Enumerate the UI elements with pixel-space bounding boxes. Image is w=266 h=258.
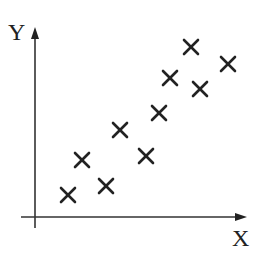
x-marker-icon (152, 106, 166, 120)
y-axis (31, 27, 39, 228)
x-marker-icon (163, 71, 177, 85)
x-axis-label: X (232, 225, 249, 251)
x-marker-icon (113, 123, 127, 137)
x-marker-icon (184, 40, 198, 54)
y-axis-label: Y (8, 19, 25, 45)
y-axis-arrow-icon (31, 27, 39, 39)
x-marker-icon (75, 153, 89, 167)
x-marker-icon (221, 57, 235, 71)
x-axis (21, 213, 247, 221)
x-axis-arrow-icon (235, 213, 247, 221)
data-points (61, 40, 235, 202)
x-marker-icon (99, 179, 113, 193)
x-marker-icon (61, 188, 75, 202)
x-marker-icon (193, 82, 207, 96)
x-marker-icon (139, 149, 153, 163)
scatter-chart: Y X (0, 0, 266, 258)
